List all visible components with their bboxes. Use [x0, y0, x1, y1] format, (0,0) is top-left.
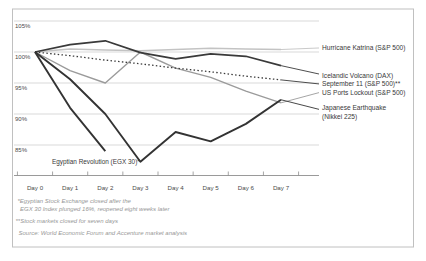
y-tick-90: 90%: [15, 116, 28, 122]
x-tick-day0: Day 0: [27, 184, 44, 191]
y-tick-95: 95%: [15, 85, 28, 91]
chart-card: 105% 100% 95% 90% 85% Day 0 Day 1 Day 2 …: [0, 0, 426, 261]
label-leader-icelandic: [281, 66, 319, 74]
footnote-source: Source: World Economic Forum and Accentu…: [19, 230, 188, 236]
series-label-us-ports-lockout: US Ports Lockout (S&P 500): [322, 89, 405, 97]
x-tick-day1: Day 1: [62, 184, 79, 191]
x-tick-day3: Day 3: [132, 184, 149, 191]
series-label-icelandic-volcano: Icelandic Volcano (DAX): [322, 72, 393, 80]
footnote-egypt-line2: EGX 30 Index plunged 16%, reopened eight…: [20, 206, 170, 212]
series-label-nikkei-225: (Nikkei 225): [322, 113, 357, 121]
series-line-usports: [35, 52, 281, 103]
y-tick-105: 105%: [15, 23, 31, 29]
x-tick-day2: Day 2: [97, 184, 114, 191]
series-label-september-11: September 11 (S&P 500)**: [322, 80, 401, 88]
series-line-icelandic: [35, 41, 281, 66]
series-label-hurricane-katrina: Hurricane Katrina (S&P 500): [322, 44, 405, 52]
footnote-markets-closed: **Stock markets closed for seven days: [16, 218, 118, 224]
x-tick-day7: Day 7: [273, 184, 290, 191]
series-label-japanese-earthquake: Japanese Earthquake: [322, 104, 386, 112]
annotation-egyptian-revolution: Egyptian Revolution (EGX 30)*: [52, 158, 140, 166]
label-leader-katrina: [281, 48, 319, 50]
series-line-katrina: [35, 48, 281, 52]
footnote-egypt-line1: *Egyptian Stock Exchange closed after th…: [18, 198, 132, 204]
y-tick-85: 85%: [15, 147, 28, 153]
y-tick-100: 100%: [15, 54, 31, 60]
label-leader-japanese: [281, 100, 319, 110]
x-tick-day4: Day 4: [168, 184, 185, 191]
series-line-egypt: [35, 52, 105, 151]
x-tick-day6: Day 6: [238, 184, 255, 191]
x-tick-day5: Day 5: [203, 184, 220, 191]
stock-impact-line-chart: 105% 100% 95% 90% 85% Day 0 Day 1 Day 2 …: [0, 0, 426, 261]
